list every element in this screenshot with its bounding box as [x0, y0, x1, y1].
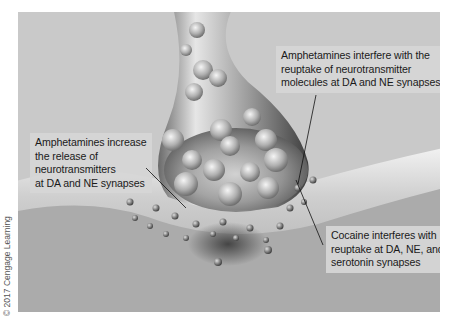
callout-amphetamine-reuptake: Amphetamines interfere with the reuptake…	[276, 46, 440, 93]
callout-line: molecules at DA and NE synapses	[281, 76, 440, 90]
callout-line: at DA and NE synapses	[35, 177, 147, 191]
callout-cocaine-reuptake: Cocaine interferes with reuptake at DA, …	[326, 226, 440, 273]
callout-line: Cocaine interferes with	[331, 229, 440, 243]
callout-line: neurotransmitters	[35, 163, 147, 177]
callout-amphetamine-release: Amphetamines increase the release of neu…	[30, 133, 152, 193]
callout-line: the release of	[35, 150, 147, 164]
callout-line: serotonin synapses	[331, 256, 440, 270]
callout-line: reuptake at DA, NE, and	[331, 243, 440, 257]
callout-line: Amphetamines interfere with the	[281, 49, 440, 63]
callout-line: reuptake of neurotransmitter	[281, 63, 440, 77]
diagram-panel: Amphetamines interfere with the reuptake…	[18, 12, 440, 312]
callout-line: Amphetamines increase	[35, 136, 147, 150]
copyright-credit: © 2017 Cengage Learning	[2, 216, 12, 316]
